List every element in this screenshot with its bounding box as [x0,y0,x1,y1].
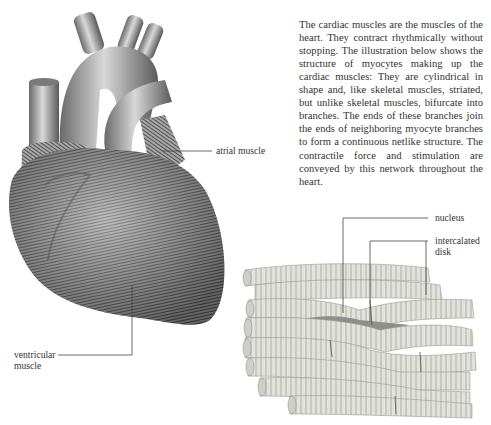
myocyte-illustration [243,264,476,418]
intercalated-label-line2: disk [435,246,480,257]
heart-illustration [9,11,225,325]
ventricular-label-line1: ventricular [14,349,56,360]
nucleus-label: nucleus [435,212,464,223]
ventricular-muscle-label: ventricular muscle [14,349,56,371]
intercalated-label-line1: intercalated [435,235,480,246]
ventricular-label-line2: muscle [14,360,56,371]
intercalated-disk-label: intercalated disk [435,235,480,257]
description-text: The cardiac muscles are the muscles of t… [299,18,483,188]
atrial-muscle-label: atrial muscle [216,145,265,156]
